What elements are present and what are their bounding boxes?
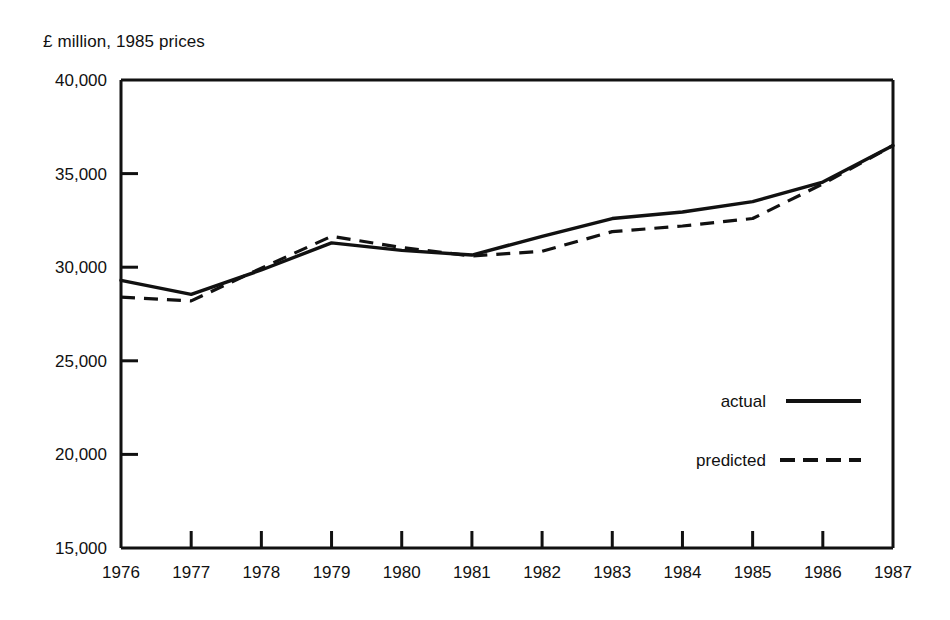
- series-line-actual: [121, 146, 893, 295]
- y-tick-label-30000: 30,000: [55, 258, 107, 277]
- x-tick-label-1980: 1980: [383, 563, 421, 582]
- x-axis-tick-labels: 1976197719781979198019811982198319841985…: [102, 563, 912, 582]
- line-chart-plot: 15,00020,00025,00030,00035,00040,000 197…: [0, 0, 950, 620]
- x-tick-label-1976: 1976: [102, 563, 140, 582]
- x-tick-label-1981: 1981: [453, 563, 491, 582]
- chart-legend: actual predicted: [696, 392, 861, 470]
- legend-label-actual: actual: [721, 392, 766, 411]
- y-tick-label-15000: 15,000: [55, 539, 107, 558]
- plot-frame: [121, 80, 893, 548]
- x-tick-label-1982: 1982: [523, 563, 561, 582]
- x-axis-ticks: [191, 531, 823, 548]
- data-series-group: [121, 146, 893, 301]
- y-axis-ticks: [121, 174, 138, 455]
- x-tick-label-1984: 1984: [664, 563, 702, 582]
- x-tick-label-1986: 1986: [804, 563, 842, 582]
- chart-container: £ million, 1985 prices 15,00020,00025,00…: [0, 0, 950, 620]
- x-tick-label-1983: 1983: [593, 563, 631, 582]
- y-tick-label-25000: 25,000: [55, 352, 107, 371]
- x-tick-label-1987: 1987: [874, 563, 912, 582]
- x-tick-label-1979: 1979: [313, 563, 351, 582]
- x-tick-label-1978: 1978: [242, 563, 280, 582]
- legend-label-predicted: predicted: [696, 451, 766, 470]
- y-tick-label-40000: 40,000: [55, 71, 107, 90]
- y-tick-label-20000: 20,000: [55, 445, 107, 464]
- x-tick-label-1985: 1985: [734, 563, 772, 582]
- y-axis-tick-labels: 15,00020,00025,00030,00035,00040,000: [55, 71, 107, 558]
- y-tick-label-35000: 35,000: [55, 165, 107, 184]
- x-tick-label-1977: 1977: [172, 563, 210, 582]
